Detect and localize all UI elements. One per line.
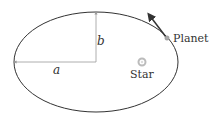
planet-dot [165, 36, 169, 40]
label-star: Star [130, 68, 155, 81]
label-a: a [53, 63, 60, 77]
orbit-diagram: a b Planet Star [0, 0, 212, 116]
velocity-arrow [150, 16, 166, 37]
label-b: b [97, 34, 105, 48]
star-core [141, 61, 143, 63]
label-planet: Planet [173, 32, 209, 45]
